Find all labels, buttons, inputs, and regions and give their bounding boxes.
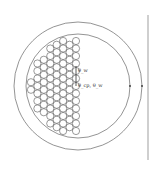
packed-cylinder bbox=[66, 116, 73, 123]
packed-cylinder bbox=[66, 101, 73, 108]
packed-cylinder bbox=[66, 86, 73, 93]
packed-cylinder bbox=[34, 67, 41, 74]
packed-cylinder bbox=[40, 109, 47, 116]
packed-cylinder bbox=[72, 90, 79, 97]
packed-cylinder bbox=[40, 94, 47, 101]
marker-dot-outer bbox=[141, 85, 143, 87]
packed-cylinder bbox=[53, 64, 60, 71]
packed-cylinder bbox=[47, 82, 54, 89]
upper-label: θ_w bbox=[78, 68, 88, 73]
packed-cylinder bbox=[53, 71, 60, 78]
packed-cylinder bbox=[72, 105, 79, 112]
packed-cylinder bbox=[34, 60, 41, 67]
packed-cylinder bbox=[66, 124, 73, 131]
packed-cylinder bbox=[66, 71, 73, 78]
packed-cylinder bbox=[66, 79, 73, 86]
packed-cylinder bbox=[53, 49, 60, 56]
packed-cylinder bbox=[40, 71, 47, 78]
packed-cylinder bbox=[47, 45, 54, 52]
packed-cylinder bbox=[34, 97, 41, 104]
packed-cylinder bbox=[27, 86, 34, 93]
packed-cylinder bbox=[47, 60, 54, 67]
packed-cylinder bbox=[34, 82, 41, 89]
packed-cylinder bbox=[47, 52, 54, 59]
packed-cylinder bbox=[47, 75, 54, 82]
packed-cylinder bbox=[53, 56, 60, 63]
packed-cylinder bbox=[66, 94, 73, 101]
packed-cylinder bbox=[40, 56, 47, 63]
packed-cylinder bbox=[60, 112, 67, 119]
packed-cylinder bbox=[60, 37, 67, 44]
packed-cylinder bbox=[34, 75, 41, 82]
packed-cylinder bbox=[53, 101, 60, 108]
packed-cylinder bbox=[40, 86, 47, 93]
packed-cylinder bbox=[60, 120, 67, 127]
packed-cylinder bbox=[34, 105, 41, 112]
packed-cylinder bbox=[72, 112, 79, 119]
packed-cylinder bbox=[60, 67, 67, 74]
packed-cylinder bbox=[60, 127, 67, 134]
packed-cylinder bbox=[60, 97, 67, 104]
lower-label: θ_cp, θ_w bbox=[78, 83, 102, 88]
packed-cylinder bbox=[60, 45, 67, 52]
packed-cylinder bbox=[34, 90, 41, 97]
packed-cylinder bbox=[60, 105, 67, 112]
marker-dot-inner bbox=[129, 85, 131, 87]
packed-cylinder bbox=[72, 97, 79, 104]
packed-cylinder bbox=[60, 75, 67, 82]
packed-cylinder bbox=[40, 79, 47, 86]
packed-cylinder bbox=[53, 109, 60, 116]
packed-cylinder bbox=[40, 64, 47, 71]
packed-cylinder bbox=[66, 64, 73, 71]
packed-cylinder bbox=[66, 56, 73, 63]
packed-cylinder bbox=[66, 49, 73, 56]
packed-cylinder bbox=[53, 94, 60, 101]
packed-cylinder bbox=[27, 79, 34, 86]
cylinder-packing bbox=[27, 37, 79, 134]
packed-cylinder bbox=[47, 120, 54, 127]
packed-cylinder bbox=[47, 112, 54, 119]
packed-cylinder bbox=[53, 41, 60, 48]
packed-cylinder bbox=[47, 67, 54, 74]
packed-cylinder bbox=[53, 79, 60, 86]
packed-cylinder bbox=[47, 97, 54, 104]
packed-cylinder bbox=[53, 124, 60, 131]
packed-cylinder bbox=[60, 60, 67, 67]
packed-cylinder bbox=[72, 127, 79, 134]
packed-cylinder bbox=[72, 37, 79, 44]
packed-cylinder bbox=[60, 52, 67, 59]
packed-cylinder bbox=[60, 90, 67, 97]
packed-cylinder bbox=[53, 116, 60, 123]
packed-cylinder bbox=[53, 86, 60, 93]
packed-cylinder bbox=[66, 41, 73, 48]
packed-cylinder bbox=[72, 45, 79, 52]
packed-cylinder bbox=[47, 90, 54, 97]
packed-cylinder bbox=[66, 109, 73, 116]
packed-cylinder bbox=[72, 52, 79, 59]
packed-cylinder bbox=[47, 105, 54, 112]
packed-cylinder bbox=[60, 82, 67, 89]
packed-cylinder bbox=[72, 120, 79, 127]
packed-cylinder bbox=[40, 101, 47, 108]
